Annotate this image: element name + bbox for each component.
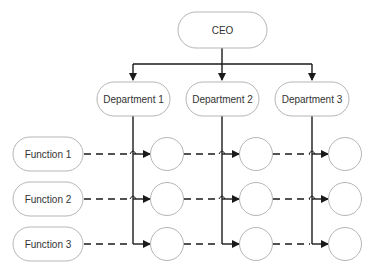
department-label: Department 1 (103, 94, 164, 105)
matrix-cells (151, 138, 362, 261)
department-lines (133, 116, 312, 244)
function-node-1: Function 1 (13, 137, 83, 171)
department-node-3: Department 3 (275, 82, 349, 116)
function-lines (84, 154, 310, 244)
function-label: Function 3 (25, 239, 72, 250)
cell-f2-d2 (240, 183, 273, 216)
cell-f3-d1 (151, 228, 184, 261)
department-label: Department 3 (282, 94, 343, 105)
function-label: Function 1 (25, 149, 72, 160)
department-label: Department 2 (192, 94, 253, 105)
cell-f2-d1 (151, 183, 184, 216)
department-node-2: Department 2 (186, 82, 259, 116)
department-node-1: Department 1 (97, 82, 170, 116)
ceo-label: CEO (212, 25, 234, 36)
function-node-3: Function 3 (13, 227, 83, 261)
cell-f1-d3 (329, 138, 362, 171)
ceo-node: CEO (178, 12, 267, 48)
cell-f3-d2 (240, 228, 273, 261)
function-node-2: Function 2 (13, 182, 83, 216)
cell-f1-d1 (151, 138, 184, 171)
function-label: Function 2 (25, 194, 72, 205)
cell-f1-d2 (240, 138, 273, 171)
matrix-org-chart: CEO Department 1 Department 2 Department… (0, 0, 373, 275)
cell-f3-d3 (329, 228, 362, 261)
cell-f2-d3 (329, 183, 362, 216)
ceo-connectors (133, 48, 312, 80)
